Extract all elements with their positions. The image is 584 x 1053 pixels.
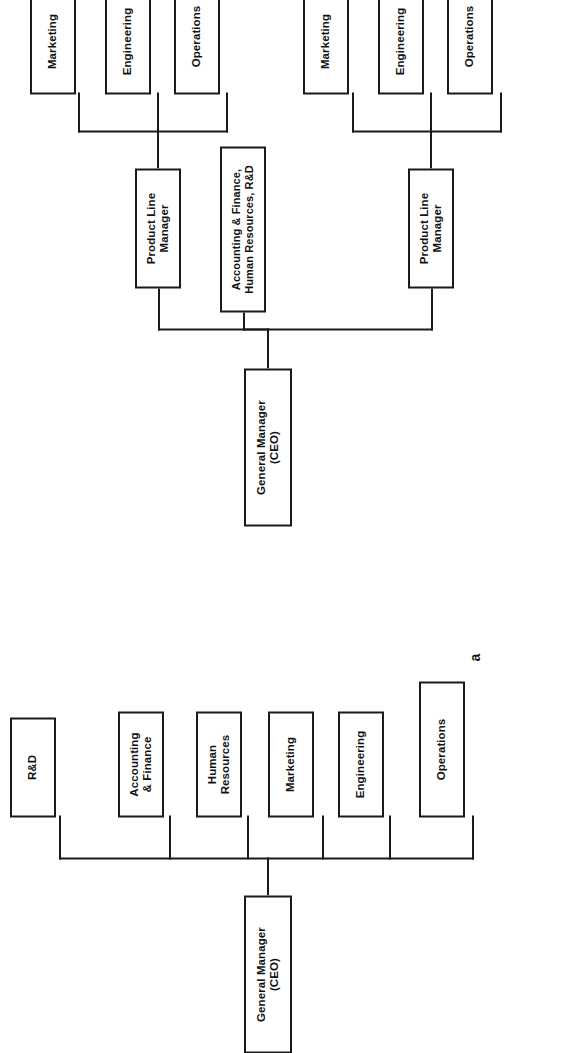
panel-a-caption: a xyxy=(467,653,483,661)
node-b-staff-functions: Accounting & Finance, Human Resources, R… xyxy=(220,146,266,312)
node-a-engineering: Engineering xyxy=(338,711,384,817)
node-b-m1-marketing-label: Marketing xyxy=(319,13,332,68)
node-b-m2-engineering-label: Engineering xyxy=(121,7,134,75)
node-b-plm1-line1: Product Line xyxy=(418,192,431,263)
node-a-accounting-line1: Accounting xyxy=(128,732,141,796)
node-a-human-resources: Human Resources xyxy=(196,711,242,817)
connector-b-m2-stub-operations xyxy=(226,92,228,132)
node-b-m2-engineering: Engineering xyxy=(105,0,151,94)
connector-a-stub-accounting xyxy=(169,815,171,859)
connector-a-stub-operations xyxy=(472,815,474,859)
node-a-general-manager: General Manager (CEO) xyxy=(244,895,292,1053)
node-a-operations-line1: Operations xyxy=(435,718,448,780)
node-b-m1-engineering: Engineering xyxy=(378,0,424,94)
connector-b-stub-manager-2 xyxy=(158,286,160,330)
node-b-staff-line1: Accounting & Finance, xyxy=(230,165,243,294)
node-a-gm-line2: (CEO) xyxy=(268,927,281,1022)
node-b-m1-marketing: Marketing xyxy=(303,0,349,94)
connector-b-root-stem xyxy=(267,328,269,368)
connector-a-stub-marketing xyxy=(322,815,324,859)
node-a-operations: Operations xyxy=(419,681,465,817)
connector-b-manager-bus xyxy=(158,328,433,330)
connector-b-m2-bus xyxy=(78,130,228,132)
node-b-m1-operations-label: Operations xyxy=(463,5,476,67)
connector-b-stub-manager-1 xyxy=(431,286,433,330)
node-b-m1-operations: Operations xyxy=(447,0,493,94)
node-b-general-manager: General Manager (CEO) xyxy=(244,368,292,526)
node-a-hr-line1: Human xyxy=(206,734,219,794)
connector-b-m1-bus xyxy=(352,130,502,132)
panel-a-functional-structure: General Manager (CEO) Operations xyxy=(0,527,584,1053)
node-b-plm1-line2: Manager xyxy=(431,192,444,263)
connector-b-m2-stub-engineering xyxy=(157,92,159,132)
node-b-m2-operations: Operations xyxy=(174,0,220,94)
connector-b-m2-stem xyxy=(157,130,159,168)
node-b-plm2-line2: Manager xyxy=(158,192,171,263)
node-a-accounting-line2: & Finance xyxy=(141,732,154,796)
connector-b-m1-stub-marketing xyxy=(352,92,354,132)
node-a-marketing: Marketing xyxy=(268,711,314,817)
node-b-m1-engineering-label: Engineering xyxy=(394,7,407,75)
connector-a-bus xyxy=(59,857,474,859)
node-b-product-line-manager-1: Product Line Manager xyxy=(408,168,454,288)
node-a-gm-line1: General Manager xyxy=(255,927,268,1022)
figure-canvas: General Manager (CEO) Operations xyxy=(0,0,584,1053)
node-a-rd: R&D xyxy=(10,717,56,817)
connector-b-m2-stub-marketing xyxy=(78,92,80,132)
node-b-gm-line2: (CEO) xyxy=(268,400,281,495)
connector-a-stub-rd xyxy=(59,815,61,859)
connector-b-m1-stub-operations xyxy=(500,92,502,132)
panel-b-product-line-structure: General Manager (CEO) Accounting & Finan… xyxy=(0,0,584,526)
node-b-m2-marketing: Marketing xyxy=(30,0,76,94)
rotated-chart-canvas: General Manager (CEO) Operations xyxy=(0,0,584,1053)
node-b-plm2-line1: Product Line xyxy=(145,192,158,263)
node-a-engineering-line1: Engineering xyxy=(354,730,367,798)
node-a-marketing-line1: Marketing xyxy=(284,736,297,791)
node-b-product-line-manager-2: Product Line Manager xyxy=(135,168,181,288)
node-a-hr-line2: Resources xyxy=(219,734,232,794)
node-b-gm-line1: General Manager xyxy=(255,400,268,495)
connector-b-m1-stem xyxy=(430,130,432,168)
connector-a-stub-human-resources xyxy=(247,815,249,859)
connector-b-staff-stub xyxy=(243,310,245,330)
connector-a-root-stem xyxy=(267,857,269,895)
node-b-m2-operations-label: Operations xyxy=(190,5,203,67)
node-b-m2-marketing-label: Marketing xyxy=(46,13,59,68)
node-a-rd-line1: R&D xyxy=(26,754,39,779)
connector-a-stub-engineering xyxy=(389,815,391,859)
node-a-accounting-finance: Accounting & Finance xyxy=(118,711,164,817)
node-b-staff-line2: Human Resources, R&D xyxy=(243,165,256,294)
connector-b-m1-stub-engineering xyxy=(430,92,432,132)
